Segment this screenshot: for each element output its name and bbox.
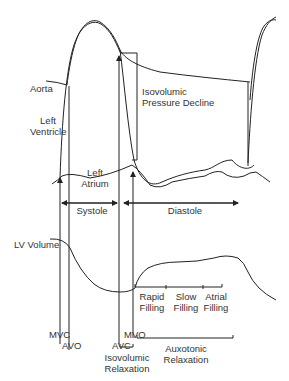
label-lv-volume: LV Volume xyxy=(14,239,59,250)
diagram-graphics xyxy=(0,0,289,381)
label-isovolumic-relaxation-2: Relaxation xyxy=(104,363,150,374)
label-diastole: Diastole xyxy=(160,205,210,216)
filling-bracket xyxy=(135,284,222,287)
label-slow-filling-1: Slow xyxy=(171,291,201,302)
label-aorta: Aorta xyxy=(30,83,53,94)
label-auxotonic-relaxation-2: Relaxation xyxy=(162,354,210,365)
cardiac-cycle-diagram: Aorta Left Ventricle Left Atrium LV Volu… xyxy=(0,0,289,381)
aorta-curve-decline xyxy=(120,50,250,82)
aorta-curve-ejection xyxy=(67,22,120,85)
label-rapid-filling-1: Rapid xyxy=(136,291,168,302)
lv-second-beat xyxy=(248,17,276,163)
label-slow-filling-2: Filling xyxy=(171,302,201,313)
label-rapid-filling-2: Filling xyxy=(136,302,168,313)
label-avc: AVC xyxy=(112,340,131,351)
label-mvc: MVC xyxy=(49,329,70,340)
label-isovolumic-relaxation-1: Isovolumic xyxy=(104,352,150,363)
label-atrial-filling-2: Filling xyxy=(201,302,231,313)
label-left-atrium-1: Left xyxy=(78,167,112,178)
label-left-ventricle-2: Ventricle xyxy=(30,126,66,137)
label-isovolumic-pressure-2: Pressure Decline xyxy=(142,97,214,108)
label-mvo: MVO xyxy=(124,329,146,340)
label-atrial-filling-1: Atrial xyxy=(201,291,231,302)
label-auxotonic-relaxation-1: Auxotonic xyxy=(162,343,210,354)
label-avo: AVO xyxy=(62,340,81,351)
label-isovolumic-pressure-1: Isovolumic xyxy=(142,86,187,97)
label-left-ventricle-1: Left xyxy=(30,115,66,126)
label-left-atrium-2: Atrium xyxy=(78,178,112,189)
label-systole: Systole xyxy=(70,205,114,216)
auxotonic-relaxation-bracket xyxy=(137,335,233,338)
